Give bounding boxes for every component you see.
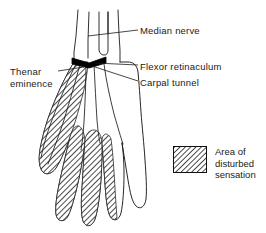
legend-text-line2: disturbed — [215, 158, 256, 170]
label-carpal-tunnel-text: Carpal tunnel — [140, 77, 199, 88]
label-median-nerve-text: Median nerve — [140, 25, 200, 36]
legend-swatch-hatched — [173, 146, 207, 173]
label-median-nerve: Median nerve — [140, 25, 200, 37]
label-thenar-eminence-line2: eminence — [10, 78, 53, 90]
figure-root: Median nerve Flexor retinaculum Carpal t… — [0, 0, 266, 233]
legend-swatch-pattern — [174, 147, 206, 172]
leader-median-nerve — [88, 30, 138, 36]
legend-text: Area of disturbed sensation — [215, 146, 256, 181]
hand-anatomy-diagram — [0, 0, 266, 233]
leader-carpal-tunnel — [92, 66, 138, 81]
legend: Area of disturbed sensation — [173, 146, 256, 181]
label-carpal-tunnel: Carpal tunnel — [140, 77, 199, 89]
forearm-outline — [74, 10, 120, 62]
label-flexor-retinaculum: Flexor retinaculum — [140, 61, 222, 73]
label-flexor-retinaculum-text: Flexor retinaculum — [140, 61, 222, 72]
legend-text-line3: sensation — [215, 169, 256, 181]
label-thenar-eminence-line1: Thenar — [10, 66, 53, 78]
label-thenar-eminence: Thenar eminence — [10, 66, 53, 89]
legend-text-line1: Area of — [215, 146, 256, 158]
